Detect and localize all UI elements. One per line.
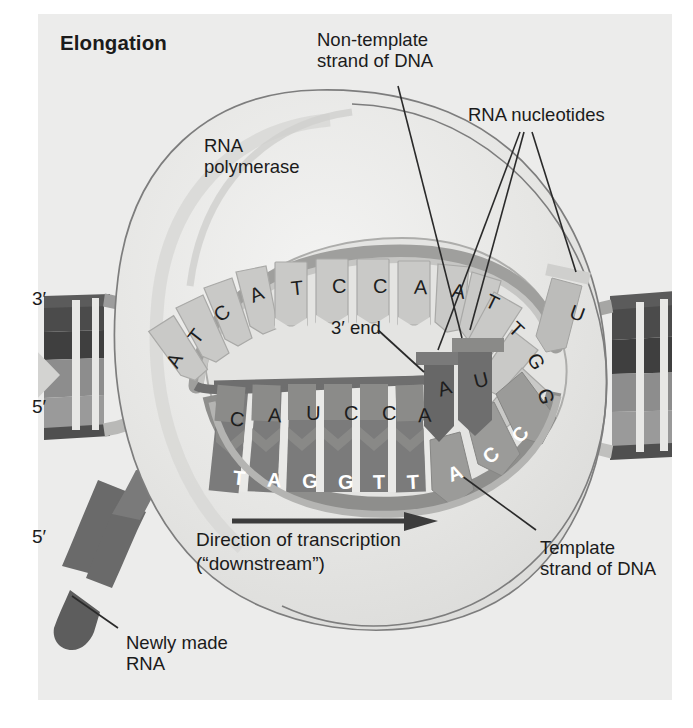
base-letter: T [232, 466, 247, 490]
base-letter: A [414, 276, 428, 299]
callout-three-prime-end: 3′ end [331, 318, 381, 339]
callout-non-template-strand: Non-template strand of DNA [317, 30, 433, 71]
base-letter: C [332, 275, 346, 298]
callout-rna-polymerase: RNA polymerase [204, 136, 300, 177]
base-letter: A [418, 404, 432, 427]
base-letter: U [306, 402, 321, 425]
callout-newly-made-rna: Newly made RNA [126, 633, 228, 674]
panel-title: Elongation [60, 32, 167, 55]
base-letter: T [406, 471, 419, 495]
end-label-rna-five-prime: 5′ [32, 526, 46, 547]
base-letter: T [290, 276, 305, 300]
base-letter: A [267, 404, 282, 428]
base-letter: C [229, 407, 246, 431]
callout-rna-nucleotides: RNA nucleotides [468, 105, 605, 126]
base-letter: C [373, 275, 387, 298]
base-letter: G [338, 471, 354, 494]
base-letter: C [382, 402, 396, 425]
direction-label-line1: Direction of transcription [196, 529, 401, 550]
direction-label-line2: (“downstream”) [196, 553, 325, 574]
end-label-dna-five-prime: 5′ [32, 396, 46, 417]
end-label-dna-three-prime: 3′ [32, 288, 46, 309]
base-letter: A [266, 469, 282, 493]
callout-template-strand: Template strand of DNA [540, 538, 656, 579]
base-letter: T [373, 471, 386, 494]
base-letter: G [302, 470, 318, 493]
base-letter: C [344, 402, 358, 425]
figure-root: Elongation RNA polymerase Non-template s… [0, 0, 693, 728]
